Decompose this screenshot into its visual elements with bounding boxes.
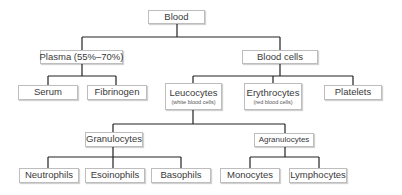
node-label: Granulocytes [86, 134, 142, 144]
node-basophils: Basophils [151, 168, 211, 183]
node-label: Blood [164, 12, 188, 22]
node-esoinophils: Esoinophils [85, 168, 145, 183]
node-leucocytes: Leucocytes (white blood cells) [165, 83, 222, 110]
node-agranulocytes: Agranulocytes [254, 133, 314, 147]
node-fibrinogen: Fibrinogen [87, 85, 147, 100]
node-label: Neutrophils [25, 170, 73, 180]
node-blood: Blood [148, 10, 205, 24]
node-sublabel: (white blood cells) [171, 99, 215, 105]
node-label: Esoinophils [91, 170, 140, 180]
node-serum: Serum [18, 85, 78, 100]
node-label: Platelets [335, 87, 371, 97]
node-label: Leucocytes [169, 88, 217, 98]
node-label: Basophils [160, 170, 201, 180]
node-label: Fibrinogen [95, 87, 140, 97]
node-label: Lymphocytes [290, 170, 346, 180]
node-platelets: Platelets [324, 85, 382, 100]
node-label: Blood cells [257, 52, 303, 62]
node-neutrophils: Neutrophils [19, 168, 79, 183]
node-granulocytes: Granulocytes [85, 132, 143, 147]
node-sublabel: (red blood cells) [253, 99, 292, 105]
node-label: Monocytes [227, 170, 273, 180]
node-label: Plasma (55%–70%) [40, 52, 124, 62]
node-label: Serum [34, 87, 62, 97]
node-erythrocytes: Erythrocytes (red blood cells) [244, 83, 302, 110]
node-lymphocytes: Lymphocytes [289, 168, 347, 183]
node-label: Agranulocytes [259, 136, 310, 145]
node-blood-cells: Blood cells [242, 50, 318, 64]
node-label: Erythrocytes [247, 88, 300, 98]
node-plasma: Plasma (55%–70%) [40, 50, 123, 64]
node-monocytes: Monocytes [220, 168, 280, 183]
